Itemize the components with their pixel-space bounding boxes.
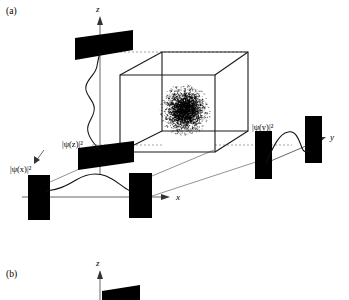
x-axis-group: x |ψ(x)|²: [10, 164, 180, 220]
potential-barrier-slab-z-lower: [78, 141, 134, 170]
x-axis-label: x: [175, 192, 180, 202]
perspective-line-lower: [152, 160, 262, 196]
potential-barrier-slab-panel-b: [102, 285, 140, 300]
potential-barrier-slab-y-outer: [305, 116, 322, 163]
perspective-line-right: [152, 150, 214, 176]
z-axis-label: z: [95, 4, 100, 14]
z-axis-arrowhead-panel-b: [97, 270, 103, 279]
panel-a: (a): [6, 4, 334, 220]
z-axis-arrowhead: [97, 16, 103, 25]
figure-canvas: (a): [0, 0, 349, 300]
potential-barrier-slab-x-left: [28, 175, 50, 220]
z-wavefunction-label: |ψ(z)|²: [62, 139, 83, 149]
cube-edge-tl: [120, 52, 162, 75]
potential-barrier-slab-z-upper: [75, 30, 133, 60]
potential-barrier-slab-x-right: [129, 173, 152, 218]
panel-b: (b) z: [6, 258, 140, 300]
z-axis-label-panel-b: z: [95, 258, 100, 268]
particle-cloud: [160, 84, 211, 136]
panel-a-label: (a): [6, 6, 17, 17]
z-wavefunction-curve: [86, 52, 100, 150]
y-wavefunction-curve: [266, 132, 308, 163]
z-axis-group: z |ψ(z)|²: [34, 4, 134, 175]
y-axis-label: y: [329, 132, 334, 142]
x-wavefunction-label: |ψ(x)|²: [10, 164, 32, 174]
y-wavefunction-label: |ψ(y)|²: [252, 122, 274, 132]
figure-root: (a): [0, 0, 349, 300]
y-axis-group: y |ψ(y)|²: [252, 116, 334, 179]
panel-b-label: (b): [6, 269, 17, 280]
x-wavefunction-curve: [46, 174, 130, 191]
cube-edge-br: [215, 131, 248, 152]
x-axis-arrowhead: [161, 194, 170, 200]
cube-edge-tr: [215, 52, 248, 75]
